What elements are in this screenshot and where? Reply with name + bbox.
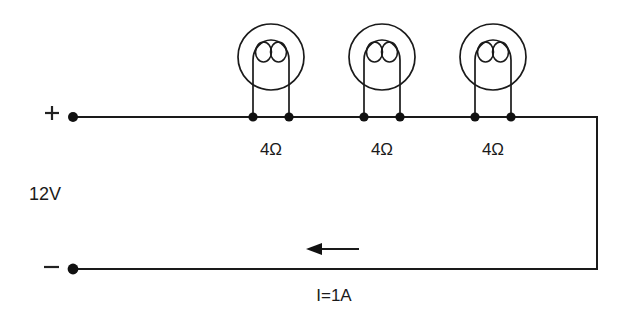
circuit-diagram-page: 4Ω 4Ω 4Ω 12V I=1A [0,0,623,319]
lamp-1-left-node [248,112,257,121]
circuit-wiring [73,117,597,269]
lamp-3-left-node [470,112,479,121]
positive-terminal[interactable] [45,106,78,122]
lamp-2-left-node [359,112,368,121]
lamp-3-resistance-label: 4Ω [482,140,504,159]
lamp-1-right-node [284,112,293,121]
circuit-schematic-canvas: 4Ω 4Ω 4Ω 12V I=1A [0,0,623,319]
lamp-3-filament-loop-right [493,42,509,62]
lamp-3[interactable] [460,24,526,122]
lamp-3-right-node [506,112,515,121]
lamp-2-filament-loop-right [382,42,398,62]
lamp-2-resistance-label: 4Ω [371,140,393,159]
lamp-2-filament-loop-left [367,42,383,62]
current-direction-arrow [306,243,359,255]
lamp-1-filament-loop-right [271,42,287,62]
lamp-1-filament-loop-left [256,42,272,62]
lamp-2[interactable] [349,24,415,122]
lamp-1-resistance-label: 4Ω [260,140,282,159]
negative-terminal[interactable] [44,264,78,275]
lamp-2-right-node [395,112,404,121]
current-arrow-head [306,243,322,255]
negative-terminal-node [68,264,79,275]
current-value-label: I=1A [316,286,352,305]
source-voltage-label: 12V [29,184,61,204]
positive-terminal-node [68,112,78,122]
lamp-3-filament-loop-left [478,42,494,62]
lamp-1[interactable] [238,24,304,122]
